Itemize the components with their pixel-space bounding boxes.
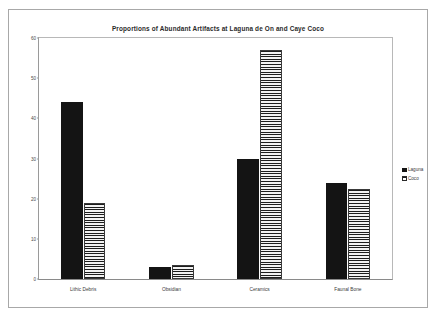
bar-laguna-faunal-bone [326, 183, 348, 279]
bar-laguna-ceramics [237, 159, 259, 280]
legend-item: Coco [402, 176, 423, 182]
bar-laguna-obsidian [149, 267, 171, 279]
y-axis-tick-label: 20 [31, 196, 36, 201]
bar-laguna-lithic-debris [61, 102, 83, 279]
bar-group: Lithic Debris [39, 38, 127, 279]
plot-area: 0102030405060Lithic DebrisObsidianCerami… [38, 37, 393, 280]
striped-swatch [402, 176, 407, 181]
legend-item-label: Coco [408, 176, 419, 182]
legend-item-label: Laguna [408, 167, 423, 173]
bar-group: Obsidian [127, 38, 215, 279]
bar-coco-lithic-debris [84, 203, 106, 279]
chart-legend: LagunaCoco [402, 167, 423, 184]
chart-figure: Proportions of Abundant Artifacts at Lag… [8, 9, 428, 308]
y-axis-tick-label: 0 [33, 277, 36, 282]
legend-item: Laguna [402, 167, 423, 173]
x-axis-tick-label: Obsidian [162, 287, 181, 293]
bar-group: Ceramics [216, 38, 304, 279]
y-axis-tick-label: 50 [31, 76, 36, 81]
plot-inner: 0102030405060Lithic DebrisObsidianCerami… [39, 38, 392, 279]
x-axis-tick-label: Ceramics [249, 287, 269, 293]
solid-black-swatch [402, 168, 407, 173]
chart-title: Proportions of Abundant Artifacts at Lag… [9, 24, 427, 33]
bar-coco-faunal-bone [348, 189, 370, 279]
y-axis-tick-label: 60 [31, 36, 36, 41]
x-axis-tick-label: Lithic Debris [70, 287, 96, 293]
y-axis-tick-label: 30 [31, 156, 36, 161]
bar-coco-obsidian [172, 265, 194, 279]
y-axis-tick-label: 10 [31, 236, 36, 241]
x-axis-tick-label: Faunal Bone [334, 287, 361, 293]
bar-coco-ceramics [260, 50, 282, 279]
bar-group: Faunal Bone [304, 38, 392, 279]
y-axis-tick-label: 40 [31, 116, 36, 121]
